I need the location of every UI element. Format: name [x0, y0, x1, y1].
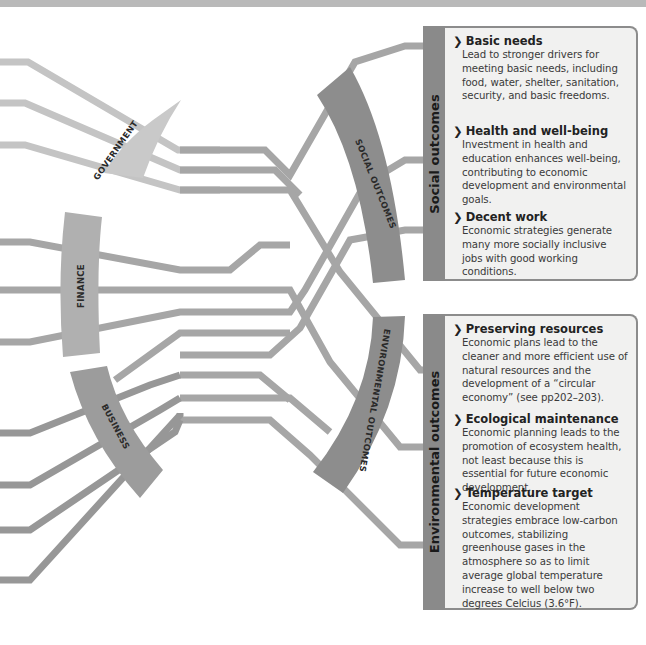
item-heading: Health and well-being	[466, 124, 608, 138]
item-text: Economic strategies generate many more s…	[453, 224, 630, 279]
item-heading: Ecological maintenance	[466, 412, 619, 426]
item-heading: Temperature target	[466, 486, 593, 500]
item-text: Economic planning leads to the promotion…	[453, 426, 630, 495]
item-text: Economic plans lead to the cleaner and m…	[453, 336, 630, 405]
social-outcomes-title: Social outcomes	[427, 94, 442, 213]
item-heading: Basic needs	[466, 34, 543, 48]
chevron-right-icon: ❯	[453, 412, 463, 426]
item-text: Investment in health and education enhan…	[453, 138, 630, 207]
item-text: Economic development strategies embrace …	[453, 500, 630, 610]
chevron-right-icon: ❯	[453, 34, 463, 48]
env-item-temperature-target: ❯Temperature target Economic development…	[453, 486, 630, 610]
item-text: Lead to stronger drivers for meeting bas…	[453, 48, 630, 103]
env-item-preserving-resources: ❯Preserving resources Economic plans lea…	[453, 322, 630, 405]
finance-label: FINANCE	[76, 264, 86, 308]
social-item-health: ❯Health and well-being Investment in hea…	[453, 124, 630, 207]
environmental-outcomes-box: ❯Preserving resources Economic plans lea…	[445, 314, 638, 610]
chevron-right-icon: ❯	[453, 124, 463, 138]
social-item-basic-needs: ❯Basic needs Lead to stronger drivers fo…	[453, 34, 630, 103]
chevron-right-icon: ❯	[453, 486, 463, 500]
item-heading: Decent work	[466, 210, 548, 224]
social-outcomes-spine: Social outcomes	[423, 26, 445, 281]
environmental-outcomes-title: Environmental outcomes	[427, 371, 442, 553]
environmental-outcomes-spine: Environmental outcomes	[423, 314, 445, 610]
social-outcomes-panel: Social outcomes ❯Basic needs Lead to str…	[423, 26, 638, 281]
chevron-right-icon: ❯	[453, 210, 463, 224]
chevron-right-icon: ❯	[453, 322, 463, 336]
item-heading: Preserving resources	[466, 322, 604, 336]
environmental-outcomes-panel: Environmental outcomes ❯Preserving resou…	[423, 314, 638, 610]
social-item-decent-work: ❯Decent work Economic strategies generat…	[453, 210, 630, 279]
social-outcomes-box: ❯Basic needs Lead to stronger drivers fo…	[445, 26, 638, 281]
env-item-ecological-maintenance: ❯Ecological maintenance Economic plannin…	[453, 412, 630, 495]
